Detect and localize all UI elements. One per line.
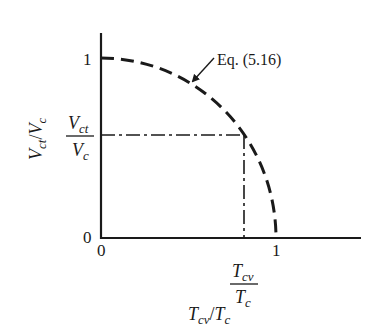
x-marker-fraction: Tcv Tc xyxy=(230,261,258,310)
svg-text:Vct: Vct xyxy=(68,113,89,136)
x-tick-label-one: 1 xyxy=(272,241,281,260)
curve-label: Eq. (5.16) xyxy=(217,51,281,69)
eq-5-16-curve xyxy=(101,58,276,238)
x-axis-title: Tcv/Tc xyxy=(188,304,231,327)
figure-canvas: Eq. (5.16) 1 0 0 1 Vct Vc Tcv Tc Tcv/Tc … xyxy=(0,0,378,327)
svg-text:Vc: Vc xyxy=(72,140,89,163)
svg-text:Tcv: Tcv xyxy=(232,261,254,284)
y-tick-label-zero: 0 xyxy=(83,228,92,247)
y-marker-fraction: Vct Vc xyxy=(66,113,94,163)
y-axis-title: Vct/Vc xyxy=(26,118,49,160)
x-tick-label-zero: 0 xyxy=(97,241,106,260)
svg-text:Tc: Tc xyxy=(235,287,251,310)
curve-label-arrow xyxy=(193,58,214,81)
y-tick-label-one: 1 xyxy=(83,50,92,69)
